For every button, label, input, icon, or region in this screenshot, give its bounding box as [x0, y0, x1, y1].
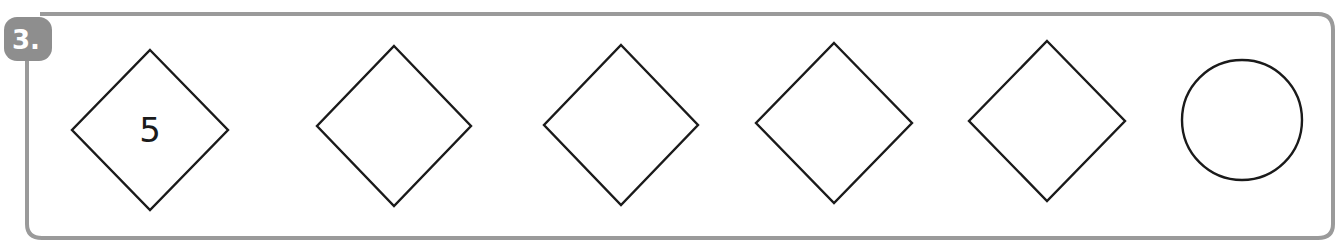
- circle-shape: [1182, 60, 1302, 180]
- diamond-shape: [544, 45, 698, 205]
- diamond-shape: [969, 41, 1125, 201]
- shape-value: 5: [139, 110, 161, 150]
- number-diamond[interactable]: [544, 45, 698, 205]
- number-diamond[interactable]: [317, 46, 471, 206]
- exercise-number: 3.: [12, 25, 40, 55]
- diamond-shape: [756, 43, 912, 203]
- answer-circle[interactable]: [1182, 60, 1302, 180]
- number-diamond[interactable]: [756, 43, 912, 203]
- number-diamond: 5: [72, 50, 228, 210]
- exercise-number-badge: 3.: [4, 17, 52, 61]
- shape-sequence: 5: [72, 41, 1302, 210]
- number-diamond[interactable]: [969, 41, 1125, 201]
- exercise-canvas: 3. 5: [0, 0, 1339, 241]
- diamond-shape: [317, 46, 471, 206]
